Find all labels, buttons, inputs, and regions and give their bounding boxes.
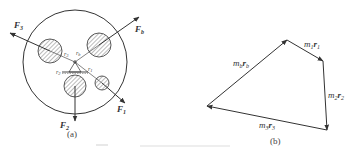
label-F3: F3 bbox=[13, 20, 23, 31]
figure-caption-faint-text bbox=[140, 145, 230, 147]
caption-a: (a) bbox=[67, 129, 77, 139]
vector-mbrb bbox=[207, 40, 287, 106]
figure-canvas: F3 Fb F2 F1 r3 rb r2 r1 (a) mbrb m1r1 m2… bbox=[0, 0, 355, 152]
label-mbrb: mbrb bbox=[233, 58, 249, 69]
figure-caption-faint bbox=[96, 144, 108, 146]
label-Fb: Fb bbox=[134, 24, 144, 35]
caption-b: (b) bbox=[270, 136, 281, 146]
label-r1: r1 bbox=[88, 66, 93, 73]
force-arrow-Fb bbox=[99, 17, 139, 45]
label-rb: rb bbox=[76, 50, 81, 57]
label-r3: r3 bbox=[64, 51, 69, 58]
figure-b-vector-polygon: mbrb m1r1 m2r2 m3r3 (b) bbox=[207, 39, 344, 146]
label-r2: r2 bbox=[56, 69, 61, 76]
label-m1r1: m1r1 bbox=[304, 39, 320, 50]
label-F1: F1 bbox=[116, 104, 126, 115]
vector-m2r2 bbox=[323, 61, 327, 130]
figure-a-rotor: F3 Fb F2 F1 r3 rb r2 r1 (a) bbox=[10, 10, 144, 139]
label-m2r2: m2r2 bbox=[328, 90, 344, 101]
label-m3r3: m3r3 bbox=[259, 120, 275, 131]
